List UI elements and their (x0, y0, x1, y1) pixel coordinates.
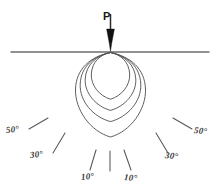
tick-right-10-line (124, 150, 131, 170)
diagram-canvas (0, 0, 221, 188)
bulb-2 (85, 53, 136, 111)
isobar-group (75, 53, 145, 138)
tick-right-50-line (173, 118, 192, 129)
angle-label-left-10: 10° (81, 172, 95, 182)
tick-left-10-line (90, 150, 96, 170)
tick-left-30-line (53, 133, 65, 153)
angle-label-left-50: 50° (6, 125, 20, 135)
load-label-P: P (103, 11, 110, 22)
tick-left-50-line (29, 118, 48, 129)
angle-tick-group (29, 118, 192, 171)
angle-label-right-30: 30° (165, 151, 179, 161)
angle-label-right-10: 10° (124, 173, 138, 183)
angle-label-right-50: 50° (194, 126, 208, 136)
angle-label-left-30: 30° (30, 150, 44, 160)
bulb-4-outermost (75, 53, 145, 138)
bulb-3 (80, 53, 141, 122)
bulb-1-innermost (91, 53, 129, 100)
pressure-bulb-diagram: P 50° 30° 10° 10° 30° 50° (0, 0, 221, 188)
load-arrow-head (107, 29, 115, 52)
